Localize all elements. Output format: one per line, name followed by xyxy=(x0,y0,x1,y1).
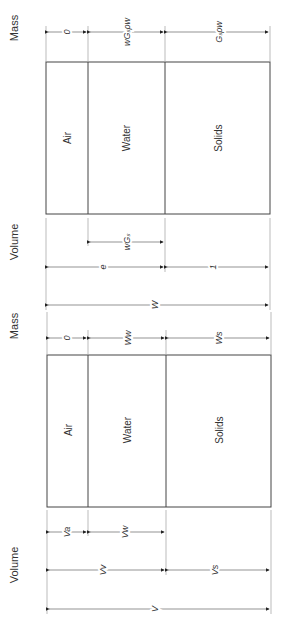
mass-air-value: 0 xyxy=(62,335,72,340)
volume-va-value: Va xyxy=(62,527,72,538)
volume-wgs-value: wGₛ xyxy=(122,233,132,251)
volume-one-value: 1 xyxy=(208,264,218,269)
phase-solids: Solids xyxy=(214,416,225,443)
total-v-value: V xyxy=(150,605,160,612)
phase-solids: Solids xyxy=(213,124,224,151)
phase-air: Air xyxy=(63,423,74,436)
volume-label: Volume xyxy=(8,224,20,261)
bottom-diagram: Mass Volume Air Water Solids 0 Ww Ws Va … xyxy=(8,312,271,614)
mass-solids-value: Gₛρw xyxy=(214,21,224,43)
volume-vv-value: Vv xyxy=(98,564,108,575)
mass-label: Mass xyxy=(8,14,20,41)
volume-e-value: e xyxy=(98,264,108,269)
volume-dimensions: wGₛ e 1 xyxy=(48,233,268,270)
phase-air: Air xyxy=(62,131,73,144)
mass-label: Mass xyxy=(8,312,20,339)
volume-dimensions: Va Vw Vv Vs xyxy=(49,525,269,575)
phase-water: Water xyxy=(122,416,133,443)
phase-diagram: Mass Volume Air Water Solids 0 wGₛρw Gₛρ… xyxy=(0,0,288,634)
mass-air-value: 0 xyxy=(62,29,72,34)
phase-box xyxy=(47,355,271,507)
phase-water: Water xyxy=(121,124,132,151)
volume-label: Volume xyxy=(8,547,20,584)
mass-dimensions: 0 wGₛρw Gₛρw xyxy=(48,17,268,46)
volume-vw-value: Vw xyxy=(120,525,130,538)
total-w-value: W xyxy=(150,299,160,309)
phase-box xyxy=(46,62,270,214)
mass-solids-value: Ws xyxy=(214,331,224,344)
volume-vs-value: Vs xyxy=(210,564,220,575)
mass-water-value: wGₛρw xyxy=(122,17,132,46)
mass-dimensions: 0 Ww Ws xyxy=(49,330,269,345)
mass-water-value: Ww xyxy=(123,330,133,345)
top-diagram: Mass Volume Air Water Solids 0 wGₛρw Gₛρ… xyxy=(8,14,270,310)
